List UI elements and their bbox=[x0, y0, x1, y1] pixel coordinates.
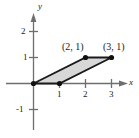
y-axis-label: y bbox=[38, 2, 42, 11]
point-annotation-2-1: (2, 1) bbox=[62, 42, 84, 52]
vertex-point-1-0 bbox=[57, 81, 62, 86]
y-tick-label-neg1: -1 bbox=[16, 105, 24, 114]
y-axis-arrow-icon bbox=[31, 13, 37, 22]
vertex-point-2-1 bbox=[83, 55, 88, 60]
y-tick-label-2: 2 bbox=[21, 27, 26, 36]
x-tick-label-2: 2 bbox=[83, 90, 88, 99]
vertex-point-3-1 bbox=[109, 55, 114, 60]
vertex-point-origin bbox=[31, 81, 36, 86]
coordinate-plane-figure: y x 2 1 -1 1 2 3 (2, 1) (3, 1) bbox=[0, 0, 139, 138]
parallelogram-shape bbox=[34, 58, 112, 84]
x-axis-label: x bbox=[129, 78, 133, 87]
point-annotation-3-1: (3, 1) bbox=[103, 42, 125, 52]
x-axis-arrow-icon bbox=[119, 81, 128, 87]
x-tick-label-3: 3 bbox=[109, 90, 114, 99]
plot-svg bbox=[0, 0, 139, 138]
x-tick-label-1: 1 bbox=[57, 90, 62, 99]
y-tick-label-1: 1 bbox=[23, 53, 28, 62]
